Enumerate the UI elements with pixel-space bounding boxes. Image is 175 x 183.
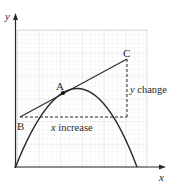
y-change-label: y change (129, 84, 167, 95)
point-b-label: B (17, 120, 24, 132)
point-a-label: A (56, 80, 64, 92)
x-axis-arrow-icon (159, 165, 166, 170)
y-axis-arrow-icon (13, 13, 18, 20)
x-increase-label: x increase (50, 122, 93, 133)
point-c-label: C (123, 47, 130, 59)
y-axis-label: y (4, 10, 10, 22)
x-axis-label: x (158, 171, 164, 183)
tangent-diagram: y x C A B y change x increase (0, 0, 175, 183)
